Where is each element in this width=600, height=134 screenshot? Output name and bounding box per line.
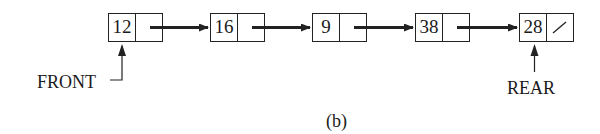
- figure-caption: (b): [326, 112, 347, 130]
- node-next-pointer: [443, 14, 469, 41]
- node-next-pointer: [136, 14, 162, 41]
- list-node-3: 9: [312, 13, 367, 42]
- node-value: 28: [520, 14, 547, 41]
- node-value: 9: [313, 14, 340, 41]
- node-next-pointer: [238, 14, 264, 41]
- rear-pointer-arrow-icon: [531, 44, 539, 72]
- rear-label: REAR: [507, 79, 555, 97]
- node-value: 16: [211, 14, 238, 41]
- node-value: 12: [109, 14, 136, 41]
- linked-list-diagram: 12 16 9 38 28: [0, 0, 600, 134]
- null-slash-icon: [547, 14, 573, 40]
- list-node-2: 16: [210, 13, 265, 42]
- list-node-1: 12: [108, 13, 163, 42]
- node-next-pointer: [340, 14, 366, 41]
- arrows-layer: [0, 0, 600, 134]
- node-value: 38: [416, 14, 443, 41]
- node-null-pointer: [547, 14, 573, 41]
- front-pointer-arrow-icon: [110, 44, 126, 80]
- front-label: FRONT: [37, 73, 96, 91]
- list-node-5: 28: [519, 13, 574, 42]
- list-node-4: 38: [415, 13, 470, 42]
